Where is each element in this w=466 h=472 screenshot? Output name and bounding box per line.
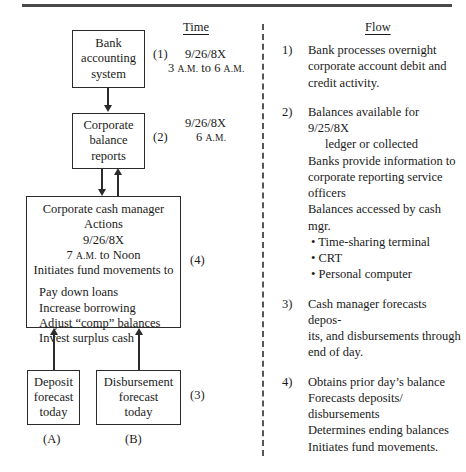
flow-item-line: Determines ending balances [308,422,462,438]
time-step2-time-pre: 6 [196,130,205,144]
time-step1-am-2: A.M. [224,64,245,74]
flow-item-line: officers [308,185,462,201]
flow-item-line: its, and disbursements through [308,328,462,344]
tag-b-disbursement: (B) [125,432,142,448]
box-bank-line-1: Bank [95,36,121,51]
flow-item-line: ledger or collected [308,136,462,152]
flow-item-line: Initiates fund movements. [308,439,462,455]
flow-item-line: Balances accessed by cash mgr. [308,201,462,234]
flow-item: 4)Obtains prior day’s balanceForecasts d… [282,374,462,455]
actions-item-list: Pay down loans Increase borrowing Adjust… [39,285,160,346]
flow-item-line: corporate reporting service [308,169,462,185]
connector-actions-to-balance [117,175,119,196]
flow-item-line: • Time-sharing terminal [308,234,462,250]
box-disbursement-line-3: today [125,405,153,420]
box-deposit-line-2: forecast [34,390,74,405]
flow-item-number: 2) [282,104,292,120]
box-bank-line-3: system [91,67,126,82]
flow-item-line: Cash manager forecasts depos- [308,296,462,329]
flow-item-line: Balances available for 9/25/8X [308,104,462,137]
actions-header-line-2: Actions [84,217,123,232]
step-number-3: (3) [190,388,205,403]
flow-item-line: end of day. [308,344,462,360]
box-disbursement-line-2: forecast [119,390,159,405]
arrowhead-up-disbursement-to-actions [135,328,143,335]
actions-item-2: Increase borrowing [39,301,160,316]
vertical-dashed-divider [262,24,264,456]
step-number-4: (4) [190,253,205,268]
actions-time-smallcaps: A.M. [76,251,97,261]
flow-item: 1)Bank processes overnightcorporate acco… [282,42,462,91]
flow-item-line: Forecasts deposits/ [308,390,462,406]
actions-initiates-line: Initiates fund movements to [34,263,174,278]
box-deposit-line-1: Deposit [34,375,73,390]
time-column-heading: Time [183,20,209,35]
arrowhead-up-actions-to-balance [114,168,122,175]
box-deposit-line-3: today [40,405,68,420]
flow-column-heading: Flow [365,20,391,35]
actions-time-range: 7 A.M. to Noon [67,248,141,263]
flowchart-page: Time Flow Bank accounting system Corpora… [0,0,466,472]
time-step1-range-mid: to 6 [198,61,223,75]
box-corporate-cash-manager-actions: Corporate cash manager Actions 9/26/8X 7… [26,196,181,328]
flow-item-line: credit activity. [308,75,462,91]
flow-item-number: 3) [282,296,292,312]
connector-balance-to-actions [101,169,103,190]
box-balance-line-1: Corporate [84,118,134,133]
connector-deposit-to-actions [53,335,55,370]
actions-time-suffix: to Noon [97,248,141,262]
tag-a-deposit: (A) [43,432,60,448]
box-bank-line-2: accounting [81,51,136,66]
box-deposit-forecast-today: Deposit forecast today [27,370,80,425]
time-step1-range-pre: 3 [168,61,177,75]
actions-time-prefix: 7 [67,248,76,262]
flow-item-line: corporate account debit and [308,58,462,74]
flow-item-number: 4) [282,374,292,390]
flow-item-line: Obtains prior day’s balance [308,374,462,390]
box-disbursement-line-1: Disbursement [104,375,173,390]
connector-disbursement-to-actions [138,335,140,370]
step-number-2: (2) [153,130,168,145]
time-step1-range: 3 A.M. to 6 A.M. [168,61,244,77]
actions-header-line-3: 9/26/8X [83,233,124,248]
arrowhead-down-bank-to-balance [104,105,112,112]
arrowhead-down-balance-to-actions [98,189,106,196]
actions-header-line-1: Corporate cash manager [43,202,164,217]
flow-item-line: Banks provide information to [308,153,462,169]
flow-item-line: disbursements [308,406,462,422]
top-horizontal-rule [22,4,452,7]
box-bank-accounting-system: Bank accounting system [72,30,145,88]
box-balance-line-3: reports [91,149,126,164]
arrowhead-up-deposit-to-actions [50,328,58,335]
flow-item-number: 1) [282,42,292,58]
box-balance-line-2: balance [89,133,127,148]
flow-item: 3)Cash manager forecasts depos-its, and … [282,296,462,361]
flow-item-line: • Personal computer [308,266,462,282]
flow-item-line: Bank processes overnight [308,42,462,58]
actions-item-1: Pay down loans [39,285,160,300]
step-number-1: (1) [153,47,168,62]
box-corporate-balance-reports: Corporate balance reports [72,113,145,169]
flow-item-list: 1)Bank processes overnightcorporate acco… [282,42,462,468]
time-step2-time: 6 A.M. [196,130,226,146]
time-step2-am: A.M. [205,133,226,143]
flow-item: 2)Balances available for 9/25/8Xledger o… [282,104,462,283]
flow-item-line: • CRT [308,250,462,266]
time-step1-am-1: A.M. [177,64,198,74]
box-disbursement-forecast-today: Disbursement forecast today [96,370,181,425]
